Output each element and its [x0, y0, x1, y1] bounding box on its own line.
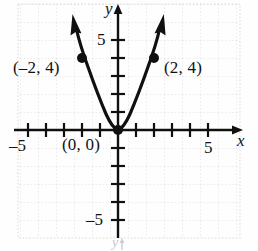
point-marker-2-4[interactable] — [149, 53, 159, 63]
curve-layer — [0, 0, 258, 251]
y-axis-label: y — [105, 0, 113, 17]
point-marker-origin[interactable] — [113, 125, 123, 135]
point-marker-neg2-4[interactable] — [77, 53, 87, 63]
point-label-neg2-4: (–2, 4) — [13, 59, 60, 76]
y-tick-label-neg5: –5 — [86, 211, 103, 228]
y-tick-label-5: 5 — [97, 31, 106, 48]
graph-figure: (–2, 4) (0, 0) (2, 4) –5 5 5 –5 x y y — [0, 0, 258, 251]
x-tick-label-neg5: –5 — [9, 137, 26, 154]
x-tick-label-5: 5 — [204, 139, 213, 156]
point-label-origin: (0, 0) — [62, 136, 100, 153]
x-axis-label: x — [237, 132, 245, 149]
parabola-curve — [77, 30, 160, 131]
point-label-2-4: (2, 4) — [164, 59, 202, 76]
scan-artifact-label: y — [112, 236, 118, 250]
